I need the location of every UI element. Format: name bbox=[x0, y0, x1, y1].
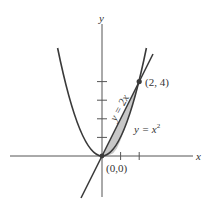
point-origin bbox=[100, 154, 105, 159]
parabola-label-exponent: 2 bbox=[157, 122, 161, 130]
point-2-4-label: (2, 4) bbox=[145, 76, 169, 89]
x-axis-label: x bbox=[195, 150, 201, 162]
point-origin-label: (0,0) bbox=[106, 162, 127, 175]
y-axis-label: y bbox=[98, 12, 104, 24]
parabola-label-base: y = x bbox=[133, 123, 157, 135]
graph-canvas: y x (2, 4) (0,0) y = 2x y = x2 bbox=[0, 0, 217, 210]
parabola-equation-label: y = x2 bbox=[133, 122, 161, 135]
point-2-4 bbox=[137, 79, 142, 84]
